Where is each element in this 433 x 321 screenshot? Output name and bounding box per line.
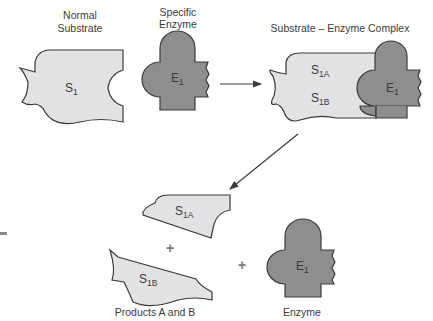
product-b-shape [110, 250, 212, 306]
release-arrow [230, 134, 298, 189]
products-caption: Products A and B [115, 306, 196, 318]
specific-enzyme-label-line1: Specific [160, 6, 197, 18]
plus-sign-products: + [166, 240, 174, 256]
plus-sign-enzyme: + [238, 257, 246, 273]
enzyme-substrate-diagram: Normal Substrate S1 Specific Enzyme E1 S… [0, 0, 433, 321]
margin-mark [0, 232, 7, 235]
enzyme-caption: Enzyme [283, 306, 321, 318]
released-enzyme-shape [267, 219, 335, 297]
specific-enzyme-label-line2: Enzyme [159, 18, 197, 30]
normal-substrate-label-line1: Normal [63, 9, 97, 21]
complex-title: Substrate – Enzyme Complex [271, 22, 411, 34]
normal-substrate-label-line2: Substrate [58, 22, 103, 34]
